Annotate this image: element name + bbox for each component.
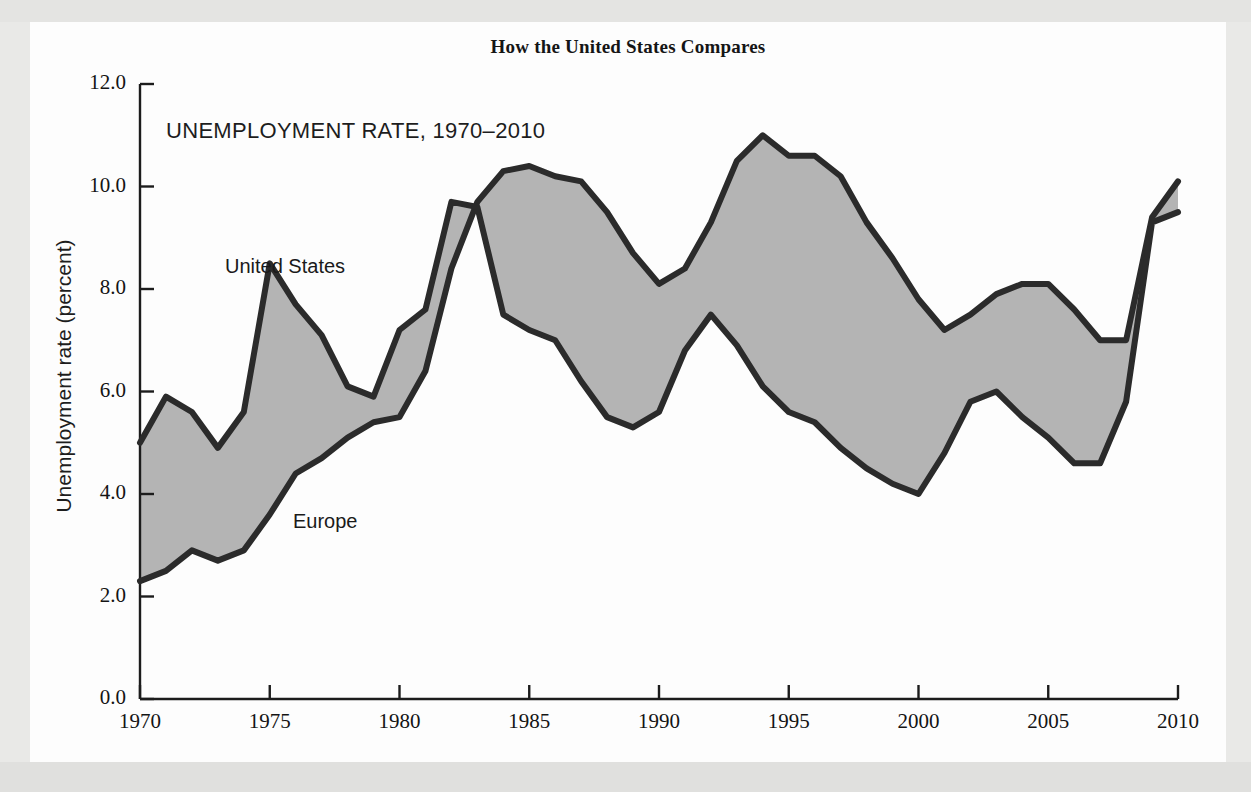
x-tick-label: 2005 xyxy=(1003,709,1093,734)
chart-figure: How the United States Compares UNEMPLOYM… xyxy=(30,22,1226,762)
x-tick-label: 1980 xyxy=(355,709,445,734)
x-tick-label: 1990 xyxy=(614,709,704,734)
chart-subtitle: UNEMPLOYMENT RATE, 1970–2010 xyxy=(166,118,545,144)
y-tick-label: 6.0 xyxy=(56,378,126,403)
page-bleed-top xyxy=(0,0,1251,22)
x-tick-label: 2000 xyxy=(874,709,964,734)
y-tick-label: 8.0 xyxy=(56,275,126,300)
page-bleed-bottom xyxy=(0,762,1251,792)
y-tick-label: 4.0 xyxy=(56,480,126,505)
y-axis-label: Unemployment rate (percent) xyxy=(52,166,76,586)
x-tick-label: 1995 xyxy=(744,709,834,734)
europe-label: Europe xyxy=(293,510,358,533)
page-title: How the United States Compares xyxy=(30,36,1226,58)
united-states-label: United States xyxy=(225,255,345,278)
x-tick-label: 2010 xyxy=(1133,709,1223,734)
y-tick-label: 0.0 xyxy=(56,685,126,710)
y-tick-label: 12.0 xyxy=(56,70,126,95)
y-tick-label: 2.0 xyxy=(56,583,126,608)
x-tick-label: 1985 xyxy=(484,709,574,734)
figure-page: How the United States Compares UNEMPLOYM… xyxy=(0,0,1251,792)
y-tick-label: 10.0 xyxy=(56,173,126,198)
x-tick-label: 1975 xyxy=(225,709,315,734)
x-tick-label: 1970 xyxy=(95,709,185,734)
